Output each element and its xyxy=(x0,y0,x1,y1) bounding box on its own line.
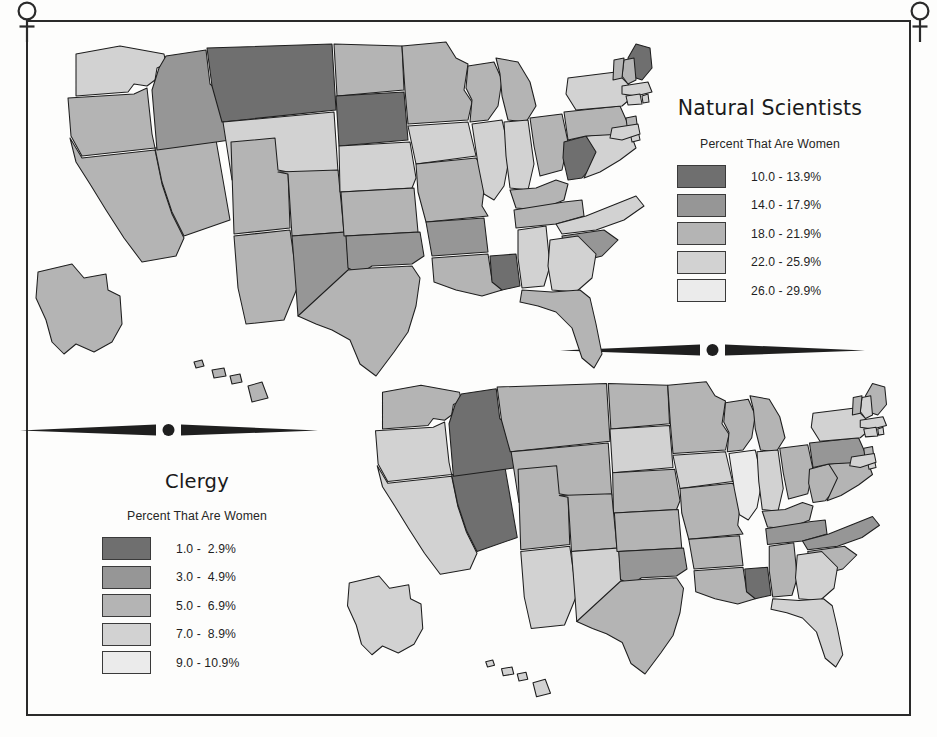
state-ar xyxy=(426,218,488,256)
state-ar xyxy=(689,536,743,569)
legend-row: 1.0 - 2.9% xyxy=(102,536,322,561)
state-ia xyxy=(673,452,733,489)
state-ct xyxy=(864,427,878,437)
state-vt xyxy=(852,396,862,415)
state-ks xyxy=(341,188,418,236)
state-al xyxy=(769,543,797,597)
state-ct xyxy=(626,94,642,105)
legend-swatch xyxy=(102,537,151,560)
legend-swatch xyxy=(102,623,151,646)
legend-clergy: Clergy Percent That Are Women 1.0 - 2.9%… xyxy=(72,470,322,679)
state-mi xyxy=(750,396,785,452)
state-hi xyxy=(194,360,268,402)
choropleth-map-natural-scientists xyxy=(16,24,656,424)
state-ak xyxy=(36,264,122,354)
legend-swatch xyxy=(102,651,151,674)
state-nd xyxy=(608,384,669,430)
legend-swatch xyxy=(677,194,726,217)
legend-label: 26.0 - 29.9% xyxy=(751,284,821,298)
legend-row: 5.0 - 6.9% xyxy=(102,593,322,618)
legend-swatch xyxy=(677,279,726,302)
legend-title-clergy: Clergy xyxy=(72,470,322,493)
legend-title-natural-scientists: Natural Scientists xyxy=(645,96,895,120)
state-mt xyxy=(497,384,610,452)
legend-row: 9.0 - 10.9% xyxy=(102,650,322,675)
state-ks xyxy=(614,510,681,552)
state-mo xyxy=(416,158,488,222)
legend-row: 3.0 - 4.9% xyxy=(102,565,322,590)
legend-class-list: 1.0 - 2.9%3.0 - 4.9%5.0 - 6.9%7.0 - 8.9%… xyxy=(72,536,322,675)
legend-swatch xyxy=(677,251,726,274)
legend-label: 9.0 - 10.9% xyxy=(176,656,239,670)
state-wi xyxy=(724,399,756,452)
legend-row: 26.0 - 29.9% xyxy=(677,278,895,303)
state-ne xyxy=(339,142,416,192)
legend-swatch xyxy=(677,165,726,188)
legend-row: 14.0 - 17.9% xyxy=(677,193,895,218)
legend-row: 18.0 - 21.9% xyxy=(677,221,895,246)
state-ri xyxy=(878,427,884,435)
state-mt xyxy=(207,44,336,122)
state-or xyxy=(376,422,452,482)
frame-top-edge xyxy=(26,20,911,22)
state-sd xyxy=(610,426,673,473)
legend-label: 10.0 - 13.9% xyxy=(751,170,821,184)
state-az xyxy=(521,546,577,628)
state-mn xyxy=(402,42,472,124)
legend-row: 7.0 - 8.9% xyxy=(102,622,322,647)
figure-page: Natural Scientists Percent That Are Wome… xyxy=(0,0,937,737)
state-oh xyxy=(780,445,813,499)
legend-label: 7.0 - 8.9% xyxy=(176,627,236,641)
legend-subtitle-clergy: Percent That Are Women xyxy=(72,509,322,523)
legend-label: 14.0 - 17.9% xyxy=(751,198,821,212)
state-fl xyxy=(520,290,602,368)
legend-label: 18.0 - 21.9% xyxy=(751,227,821,241)
legend-label: 5.0 - 6.9% xyxy=(176,599,236,613)
state-mi xyxy=(496,58,536,122)
state-al xyxy=(518,226,550,288)
state-az xyxy=(234,230,298,324)
venus-symbol-icon xyxy=(903,0,937,44)
state-ne xyxy=(613,469,680,513)
state-oh xyxy=(530,114,568,176)
legend-swatch xyxy=(677,222,726,245)
state-ms xyxy=(490,254,520,290)
legend-swatch xyxy=(102,594,151,617)
state-fl xyxy=(771,599,843,667)
legend-label: 1.0 - 2.9% xyxy=(176,542,236,556)
state-mn xyxy=(668,382,729,454)
state-ms xyxy=(745,567,771,599)
state-vt xyxy=(613,58,624,80)
state-hi xyxy=(486,660,551,697)
legend-label: 3.0 - 4.9% xyxy=(176,570,236,584)
choropleth-map-clergy xyxy=(300,366,920,716)
legend-subtitle-natural-scientists: Percent That Are Women xyxy=(645,137,895,151)
state-in xyxy=(757,450,783,511)
legend-swatch xyxy=(102,566,151,589)
us-states-svg xyxy=(300,366,920,716)
state-in xyxy=(504,120,534,190)
state-wi xyxy=(466,62,502,122)
legend-row: 22.0 - 25.9% xyxy=(677,250,895,275)
legend-natural-scientists: Natural Scientists Percent That Are Wome… xyxy=(645,96,895,307)
state-mo xyxy=(680,483,743,539)
us-states-svg xyxy=(16,24,656,424)
state-sd xyxy=(336,92,408,146)
state-ak xyxy=(348,576,423,655)
state-ia xyxy=(408,122,476,164)
legend-class-list: 10.0 - 13.9%14.0 - 17.9%18.0 - 21.9%22.0… xyxy=(645,164,895,303)
legend-label: 22.0 - 25.9% xyxy=(751,255,821,269)
legend-row: 10.0 - 13.9% xyxy=(677,164,895,189)
state-nd xyxy=(334,44,404,96)
state-or xyxy=(68,88,155,156)
